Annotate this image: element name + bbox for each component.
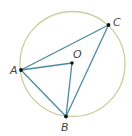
point-o bbox=[70, 61, 73, 64]
segment-ac bbox=[21, 25, 109, 70]
segment-ab bbox=[21, 70, 66, 117]
point-b bbox=[64, 115, 68, 119]
circle-diagram: A B C O bbox=[0, 0, 132, 136]
point-c bbox=[107, 23, 111, 27]
segment-bc bbox=[66, 25, 109, 117]
label-b: B bbox=[61, 121, 69, 134]
label-a: A bbox=[9, 64, 18, 77]
segment-ob bbox=[66, 63, 72, 117]
point-a bbox=[19, 68, 23, 72]
label-o: O bbox=[73, 48, 82, 61]
label-c: C bbox=[113, 16, 121, 29]
